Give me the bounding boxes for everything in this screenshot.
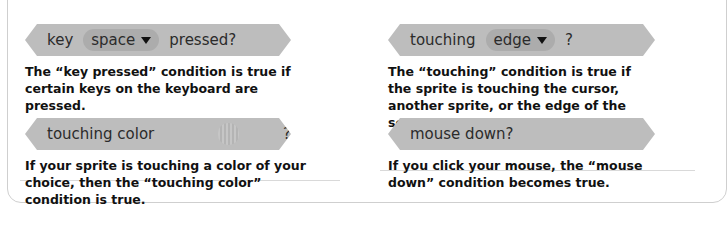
block-label: mouse down?: [410, 125, 514, 143]
key-pressed-description: The “key pressed” condition is true if c…: [25, 63, 295, 114]
block-label: key: [47, 31, 73, 49]
color-swatch[interactable]: [218, 123, 239, 145]
mouse-down-block[interactable]: mouse down?: [388, 118, 655, 150]
dropdown-value: space: [91, 31, 135, 49]
touching-block[interactable]: touching edge ?: [388, 24, 655, 56]
touching-color-block[interactable]: touching color ?: [25, 118, 291, 150]
touching-color-description: If your sprite is touching a color of yo…: [25, 157, 315, 208]
dropdown-arrow-icon: [537, 37, 547, 44]
dropdown-value: edge: [494, 31, 532, 49]
block-label: touching color: [47, 125, 154, 143]
block-label: pressed?: [169, 31, 236, 49]
dropdown-arrow-icon: [141, 37, 151, 44]
key-dropdown[interactable]: space: [83, 29, 159, 51]
key-pressed-block[interactable]: key space pressed?: [25, 24, 291, 56]
block-label: touching: [410, 31, 476, 49]
block-label: ?: [565, 31, 573, 49]
touching-dropdown[interactable]: edge: [486, 29, 556, 51]
mouse-down-description: If you click your mouse, the “mouse down…: [388, 157, 663, 191]
